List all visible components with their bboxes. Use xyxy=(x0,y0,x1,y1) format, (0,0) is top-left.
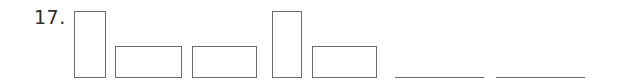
pattern-shape-4-tall-rectangle xyxy=(272,11,302,78)
pattern-shape-1-tall-rectangle xyxy=(74,11,106,78)
pattern-shape-5-wide-rectangle xyxy=(312,46,377,78)
pattern-shape-3-wide-rectangle xyxy=(192,46,257,78)
question-number: 17. xyxy=(34,6,66,28)
answer-blank-2[interactable] xyxy=(496,77,585,78)
answer-blank-1[interactable] xyxy=(395,77,484,78)
pattern-shape-2-wide-rectangle xyxy=(115,46,182,78)
